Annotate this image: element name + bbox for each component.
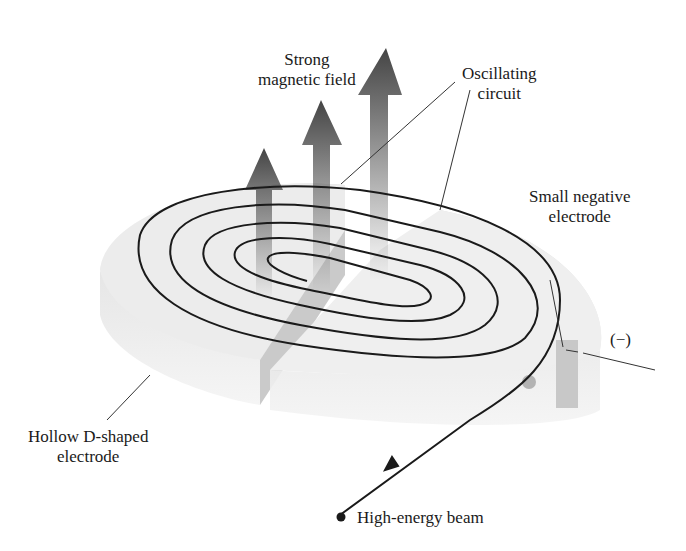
cyclotron-diagram: Strong magnetic field Oscillating circui… xyxy=(0,0,686,551)
label-negative-sign: (−) xyxy=(610,330,631,350)
beam-exit-dot xyxy=(337,513,346,522)
label-high-energy-beam: High-energy beam xyxy=(357,508,484,528)
label-small-negative-electrode: Small negative electrode xyxy=(529,187,631,227)
label-oscillating-circuit: Oscillating circuit xyxy=(462,64,537,104)
label-magnetic-field: Strong magnetic field xyxy=(258,50,356,90)
label-hollow-d-electrode: Hollow D-shaped electrode xyxy=(28,427,148,467)
